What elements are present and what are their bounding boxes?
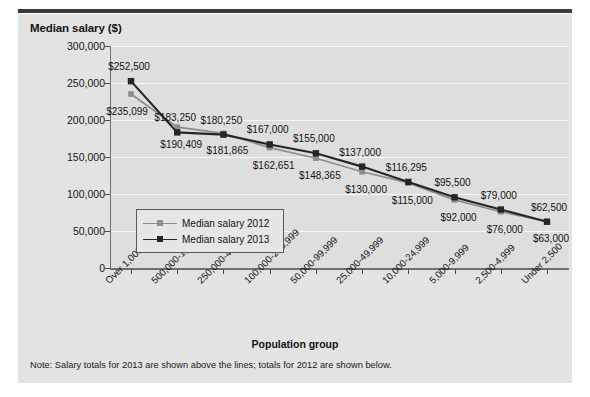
x-axis-tick-mark (223, 269, 224, 274)
data-point-label: $183,250 (154, 112, 196, 123)
y-axis-tick-mark (105, 120, 110, 121)
x-axis-tick-mark (362, 269, 363, 274)
y-axis-tick-mark (105, 83, 110, 84)
x-axis-title: Population group (0, 338, 590, 350)
y-axis-tick-mark (105, 268, 110, 269)
x-axis-tick-mark (455, 269, 456, 274)
data-point-label: $162,651 (253, 159, 295, 170)
legend: Median salary 2012Median salary 2013 (136, 209, 284, 253)
data-point-label: $167,000 (247, 124, 289, 135)
data-point-label: $92,000 (440, 211, 476, 222)
data-point-label: $137,000 (339, 146, 381, 157)
x-axis-tick-mark (316, 269, 317, 274)
legend-swatch (143, 217, 177, 229)
x-axis-tick-mark (270, 269, 271, 274)
chart-title: Median salary ($) (30, 22, 122, 34)
data-point-label: $155,000 (293, 133, 335, 144)
data-point-label: $116,295 (386, 161, 427, 172)
data-point-label: $63,000 (533, 233, 569, 244)
data-point-label: $148,365 (299, 170, 341, 181)
x-axis-tick-mark (547, 269, 548, 274)
legend-item: Median salary 2013 (143, 231, 277, 247)
y-axis-tick-marks (0, 46, 115, 268)
legend-label: Median salary 2013 (182, 234, 269, 245)
x-axis-tick-mark (501, 269, 502, 274)
gridline (110, 83, 568, 84)
data-point-label: $62,500 (531, 201, 567, 212)
gridline (110, 46, 568, 47)
legend-item: Median salary 2012 (143, 215, 277, 231)
data-point-label: $79,000 (481, 189, 517, 200)
chart-figure: Median salary ($) 050,000100,000150,0002… (0, 0, 590, 397)
data-point-label: $180,250 (201, 114, 243, 125)
legend-label: Median salary 2012 (182, 218, 269, 229)
data-point-label: $252,500 (108, 61, 150, 72)
data-point-label: $190,409 (160, 139, 202, 150)
y-axis-tick-mark (105, 231, 110, 232)
legend-swatch (143, 233, 177, 245)
data-point-label: $115,000 (392, 194, 433, 205)
figure-note: Note: Salary totals for 2013 are shown a… (30, 360, 392, 370)
data-point-label: $76,000 (487, 223, 523, 234)
x-axis-tick-mark (177, 269, 178, 274)
y-axis-tick-mark (105, 194, 110, 195)
x-axis-tick-mark (131, 269, 132, 274)
top-rule (18, 9, 572, 13)
data-point-label: $181,865 (207, 145, 249, 156)
data-point-label: $130,000 (345, 183, 387, 194)
y-axis-tick-mark (105, 157, 110, 158)
x-axis-tick-mark (408, 269, 409, 274)
data-point-label: $95,500 (434, 177, 470, 188)
data-point-label: $235,099 (106, 106, 148, 117)
y-axis-tick-mark (105, 46, 110, 47)
